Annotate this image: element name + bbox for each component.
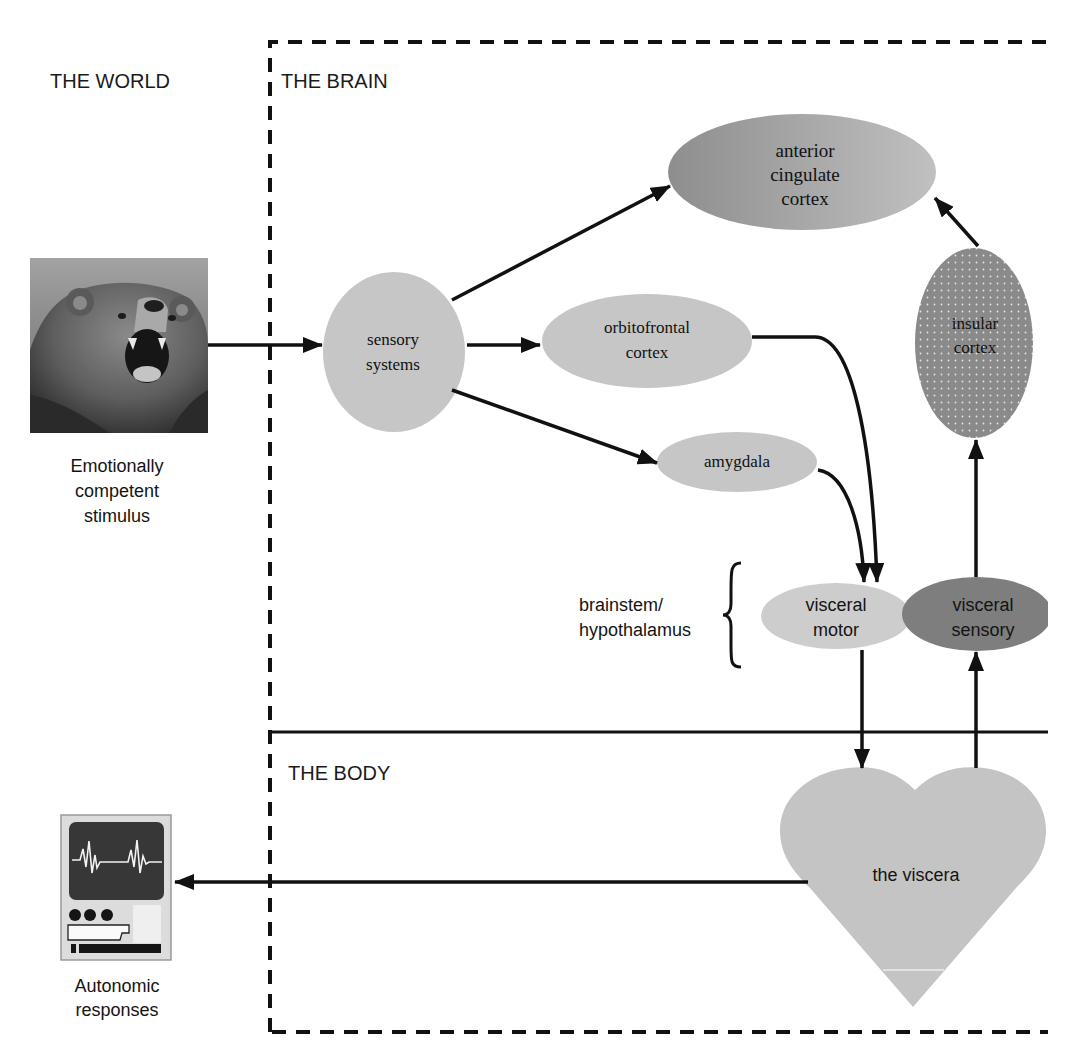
stimulus-label-line-1: Emotionally <box>70 456 163 476</box>
autonomic-label-line-1: Autonomic <box>74 976 159 996</box>
arrow-sensory-to-amygdala <box>452 390 657 463</box>
sensory-label-line-1: sensory <box>367 330 419 349</box>
heart-monitor-icon <box>61 815 171 960</box>
stimulus-label-line-2: competent <box>75 481 159 501</box>
amygdala-label: amygdala <box>704 452 771 471</box>
visceral-sensory-label-line-2: sensory <box>951 620 1014 640</box>
viscera-label: the viscera <box>872 865 960 885</box>
heart-icon <box>780 767 1046 1007</box>
region-label-brain: THE BRAIN <box>281 70 388 92</box>
node-orbitofrontal-cortex <box>542 294 752 388</box>
acc-label-line-2: cingulate <box>770 164 840 185</box>
brace-label-line-1: brainstem/ <box>579 595 663 615</box>
bear-photo-icon <box>30 258 208 433</box>
brace-label-line-2: hypothalamus <box>579 620 691 640</box>
acc-label-line-3: cortex <box>781 188 829 209</box>
stimulus-label-line-3: stimulus <box>84 506 150 526</box>
node-sensory-systems <box>323 272 465 432</box>
curly-brace <box>723 563 741 667</box>
visceral-sensory-label-line-1: visceral <box>952 595 1013 615</box>
arrow-amygdala-to-visceral-motor <box>818 470 864 582</box>
visceral-motor-label-line-2: motor <box>813 620 859 640</box>
emotion-pathway-diagram: THE WORLD THE BRAIN THE BODY Emotionally… <box>0 0 1077 1056</box>
sensory-label-line-2: systems <box>366 355 420 374</box>
region-label-body: THE BODY <box>288 762 390 784</box>
region-label-world: THE WORLD <box>50 70 170 92</box>
diagram-svg: THE WORLD THE BRAIN THE BODY Emotionally… <box>0 0 1077 1056</box>
autonomic-label-line-2: responses <box>75 1000 158 1020</box>
acc-label-line-1: anterior <box>775 140 835 161</box>
insular-label-line-1: insular <box>952 314 999 333</box>
visceral-motor-label-line-1: visceral <box>805 595 866 615</box>
ofc-label-line-1: orbitofrontal <box>604 318 690 337</box>
ofc-label-line-2: cortex <box>626 343 669 362</box>
insular-label-line-2: cortex <box>954 338 997 357</box>
arrow-insular-to-acc <box>935 198 978 246</box>
arrow-sensory-to-acc <box>452 186 670 300</box>
